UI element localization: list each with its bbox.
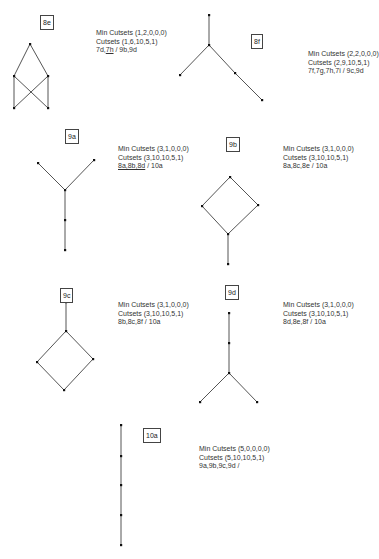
graph-8e-node bbox=[29, 43, 31, 45]
graph-8f-edge bbox=[235, 73, 262, 100]
graph-9b-edge bbox=[202, 206, 228, 234]
graph-9b-edge bbox=[228, 205, 258, 234]
graph-9a-edge bbox=[65, 160, 94, 190]
graph-9c-edge bbox=[66, 331, 93, 359]
graph-10a-node bbox=[120, 455, 122, 457]
graph-8f-edge bbox=[180, 45, 209, 75]
relations-8f: 7f,7g,7h,7i / 9c,9d bbox=[308, 67, 379, 76]
graph-8e-node bbox=[13, 107, 15, 109]
min-cutsets-9c: Min Cutsets (3,1,0,0,0) bbox=[118, 301, 189, 310]
graph-label-9a: 9a bbox=[65, 129, 79, 144]
graph-9c-edge bbox=[64, 359, 93, 390]
min-cutsets-9d: Min Cutsets (3,1,0,0,0) bbox=[283, 301, 354, 310]
min-cutsets-10a: Min Cutsets (5,0,0,0,0) bbox=[199, 445, 270, 454]
graph-8e-edge bbox=[14, 44, 30, 76]
relations-9c: 8b,8c,8f / 10a bbox=[118, 318, 189, 327]
graph-info-8e: Min Cutsets (1,2,0,0,0) Cutsets (1,6,10,… bbox=[96, 29, 167, 55]
cutsets-9a: Cutsets (3,10,10,5,1) bbox=[118, 154, 189, 163]
graph-8f-node bbox=[208, 14, 210, 16]
graph-8e-node bbox=[47, 75, 49, 77]
graph-9c-node bbox=[65, 330, 67, 332]
relations-8e-suffix: / 9b,9d bbox=[114, 46, 137, 53]
min-cutsets-8e: Min Cutsets (1,2,0,0,0) bbox=[96, 29, 167, 38]
graph-9c-node bbox=[63, 389, 65, 391]
graph-9d-node bbox=[256, 401, 258, 403]
graph-9c-edge bbox=[37, 331, 66, 362]
graph-8f-node bbox=[261, 99, 263, 101]
graph-9d-node bbox=[228, 342, 230, 344]
graph-8e bbox=[13, 43, 49, 109]
graph-9b-node bbox=[201, 205, 203, 207]
graph-9b-edge bbox=[202, 177, 230, 206]
graph-10a-node bbox=[120, 424, 122, 426]
graph-9a-node bbox=[37, 162, 39, 164]
graph-9d-node bbox=[199, 401, 201, 403]
relations-9a-suffix: / 10a bbox=[145, 162, 163, 169]
relations-8e-underlined: 7h bbox=[106, 46, 114, 53]
cutsets-9c: Cutsets (3,10,10,5,1) bbox=[118, 310, 189, 319]
graph-label-9c: 9c bbox=[60, 288, 73, 303]
graph-info-9d: Min Cutsets (3,1,0,0,0) Cutsets (3,10,10… bbox=[283, 301, 354, 327]
graph-9d bbox=[199, 312, 258, 403]
graph-9d-edge bbox=[229, 373, 257, 402]
graph-10a-node bbox=[120, 514, 122, 516]
graph-9a-node bbox=[64, 249, 66, 251]
relations-10a: 9a,9b,9c,9d / bbox=[199, 462, 270, 471]
graph-9a-node bbox=[93, 159, 95, 161]
relations-9b: 8a,8c,8e / 10a bbox=[283, 162, 354, 171]
graph-label-10a: 10a bbox=[143, 428, 161, 443]
graph-info-9c: Min Cutsets (3,1,0,0,0) Cutsets (3,10,10… bbox=[118, 301, 189, 327]
graph-info-9b: Min Cutsets (3,1,0,0,0) Cutsets (3,10,10… bbox=[283, 145, 354, 171]
graph-9a bbox=[37, 159, 95, 251]
relations-8e-prefix: 7d, bbox=[96, 46, 106, 53]
graph-info-8f: Min Cutsets (2,2,0,0,0) Cutsets (2,9,10,… bbox=[308, 50, 379, 76]
graph-9b-node bbox=[229, 176, 231, 178]
cutsets-8f: Cutsets (2,9,10,5,1) bbox=[308, 59, 379, 68]
graph-9d-node bbox=[228, 372, 230, 374]
graph-label-9b: 9b bbox=[226, 137, 240, 152]
graph-8f-node bbox=[179, 74, 181, 76]
graph-8e-node bbox=[47, 107, 49, 109]
graph-8e-node bbox=[13, 75, 15, 77]
graph-9b-edge bbox=[230, 177, 258, 205]
cutsets-9b: Cutsets (3,10,10,5,1) bbox=[283, 154, 354, 163]
graph-9b-node bbox=[227, 263, 229, 265]
relations-9a: 8a,8b,8d / 10a bbox=[118, 162, 189, 171]
graph-8f-edge bbox=[209, 45, 235, 73]
cutsets-10a: Cutsets (5,10,10,5,1) bbox=[199, 454, 270, 463]
graph-9c-edge bbox=[37, 362, 64, 390]
graph-9c bbox=[36, 301, 94, 391]
graph-9a-node bbox=[64, 189, 66, 191]
graph-9c-node bbox=[92, 358, 94, 360]
relations-9d: 8d,8e,8f / 10a bbox=[283, 318, 354, 327]
graph-10a-node bbox=[120, 484, 122, 486]
graph-9b bbox=[201, 176, 259, 265]
graph-8f bbox=[179, 14, 263, 101]
graph-label-8e: 8e bbox=[40, 15, 54, 30]
graph-info-9a: Min Cutsets (3,1,0,0,0) Cutsets (3,10,10… bbox=[118, 145, 189, 171]
relations-9a-underlined: 8a,8b,8d bbox=[118, 162, 145, 169]
graph-9b-node bbox=[227, 233, 229, 235]
graph-info-10a: Min Cutsets (5,0,0,0,0) Cutsets (5,10,10… bbox=[199, 445, 270, 471]
cutsets-9d: Cutsets (3,10,10,5,1) bbox=[283, 310, 354, 319]
graph-9b-node bbox=[257, 204, 259, 206]
graph-9a-edge bbox=[38, 163, 65, 190]
min-cutsets-8f: Min Cutsets (2,2,0,0,0) bbox=[308, 50, 379, 59]
graph-9a-node bbox=[64, 219, 66, 221]
min-cutsets-9b: Min Cutsets (3,1,0,0,0) bbox=[283, 145, 354, 154]
graph-label-8f: 8f bbox=[251, 34, 263, 49]
graph-9d-node bbox=[228, 312, 230, 314]
relations-8e: 7d,7h / 9b,9d bbox=[96, 46, 167, 55]
graph-10a bbox=[120, 424, 122, 546]
graph-label-9d: 9d bbox=[225, 285, 239, 300]
cutsets-8e: Cutsets (1,6,10,5,1) bbox=[96, 38, 167, 47]
min-cutsets-9a: Min Cutsets (3,1,0,0,0) bbox=[118, 145, 189, 154]
graph-8f-node bbox=[208, 44, 210, 46]
graph-8f-node bbox=[234, 72, 236, 74]
graph-8e-edge bbox=[30, 44, 48, 76]
graph-10a-node bbox=[120, 544, 122, 546]
graph-9c-node bbox=[36, 361, 38, 363]
graph-9d-edge bbox=[200, 373, 229, 402]
